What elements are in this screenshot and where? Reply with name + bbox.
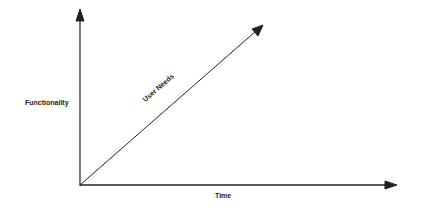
diagram-canvas xyxy=(0,0,434,217)
x-axis-label: Time xyxy=(215,192,231,199)
y-axis-arrowhead-icon xyxy=(76,9,84,21)
user-needs-line xyxy=(80,31,256,185)
user-needs-arrowhead-icon xyxy=(252,25,263,36)
y-axis-label: Functionality xyxy=(25,99,69,106)
x-axis-arrowhead-icon xyxy=(385,181,397,189)
